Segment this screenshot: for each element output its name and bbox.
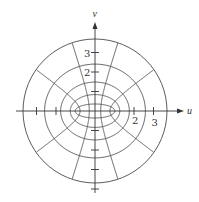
u-tick-label-2: 2 bbox=[132, 115, 138, 126]
v-axis-arrowhead-icon bbox=[93, 22, 98, 29]
hyperbola-curve bbox=[36, 70, 80, 111]
u-tick-label-3: 3 bbox=[152, 117, 158, 128]
hyperbola-curve bbox=[36, 111, 80, 152]
u-axis-arrowhead-icon bbox=[177, 109, 184, 114]
u-axis-label: u bbox=[187, 105, 192, 116]
hyperbola-curve bbox=[110, 70, 154, 111]
v-tick-label-2: 2 bbox=[84, 67, 90, 78]
v-tick-label-3: 3 bbox=[84, 48, 90, 59]
v-axis-label: v bbox=[93, 8, 98, 19]
elliptic-coordinate-diagram: u v 2 3 2 3 bbox=[0, 0, 199, 202]
